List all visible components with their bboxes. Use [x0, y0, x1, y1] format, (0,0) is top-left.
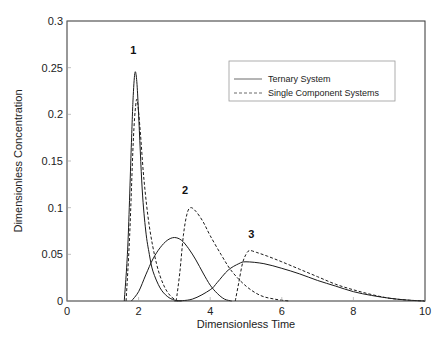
single-component-curve [126, 99, 178, 301]
ternary-curve [124, 72, 181, 301]
y-tick-label: 0.1 [48, 202, 63, 214]
peak-label: 1 [130, 44, 136, 56]
x-tick-label: 2 [136, 305, 142, 317]
legend-item-single: Single Component Systems [268, 88, 380, 98]
peak-label: 3 [248, 228, 254, 240]
y-tick-label: 0.05 [42, 248, 63, 260]
x-tick-label: 0 [64, 305, 70, 317]
single-component-curve [235, 251, 425, 301]
y-axis-label: Dimensionless Concentration [12, 89, 24, 232]
x-tick-label: 6 [279, 305, 285, 317]
y-tick-label: 0.15 [42, 155, 63, 167]
chart: 00.050.10.150.20.250.3 0246810 Dimension… [0, 0, 445, 348]
peak-label: 2 [182, 184, 188, 196]
y-tick-label: 0.3 [48, 15, 63, 27]
legend: Ternary System Single Component Systems [229, 61, 395, 101]
x-tick-label: 10 [419, 305, 431, 317]
ternary-curve [131, 238, 231, 301]
y-tick-label: 0.2 [48, 108, 63, 120]
ternary-curve [174, 262, 425, 301]
single-component-curve [176, 208, 289, 301]
data-series [124, 72, 425, 301]
y-tick-label: 0.25 [42, 62, 63, 74]
legend-item-ternary: Ternary System [268, 74, 331, 84]
x-tick-label: 8 [350, 305, 356, 317]
y-tick-label: 0 [57, 295, 63, 307]
x-axis: 0246810 [64, 297, 431, 317]
x-axis-label: Dimensionless Time [197, 318, 295, 330]
x-tick-label: 4 [207, 305, 213, 317]
